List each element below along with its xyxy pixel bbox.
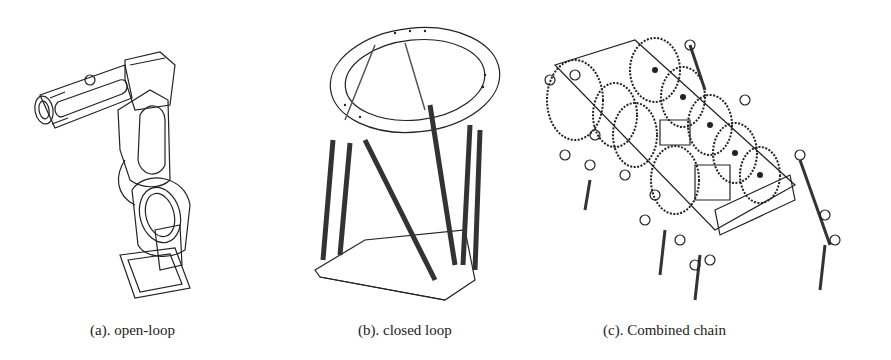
figure-panel-open-loop (20, 20, 220, 305)
figure-panel-combined-chain (535, 15, 855, 305)
robot-arm-drawing (20, 20, 220, 305)
parallel-platform-drawing (305, 25, 505, 305)
caption-combined-chain: (c). Combined chain (603, 322, 726, 339)
caption-closed-loop: (b). closed loop (358, 322, 452, 339)
legged-robot-drawing (535, 15, 855, 305)
figure-panel-closed-loop (305, 25, 505, 305)
caption-open-loop: (a). open-loop (90, 322, 175, 339)
